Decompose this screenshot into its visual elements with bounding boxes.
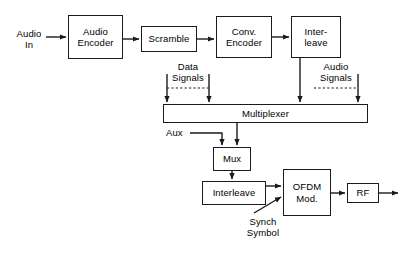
connector-wire-layer — [0, 0, 415, 253]
block-interleave-top-label: Inter- leave — [304, 26, 327, 48]
block-scramble[interactable]: Scramble — [141, 26, 197, 52]
block-rf[interactable]: RF — [347, 183, 379, 203]
label-audio-signals: Audio Signals — [308, 61, 364, 83]
block-mux-label: Mux — [223, 153, 241, 164]
block-ofdm-mod[interactable]: OFDM Mod. — [283, 169, 331, 216]
block-interleave-top[interactable]: Inter- leave — [291, 16, 341, 58]
label-data-signals: Data Signals — [160, 61, 216, 83]
block-multiplexer-label: Multiplexer — [242, 108, 289, 119]
block-conv-encoder[interactable]: Conv. Encoder — [216, 16, 272, 58]
block-interleave-bottom[interactable]: Interleave — [202, 181, 266, 205]
block-rf-label: RF — [357, 187, 370, 198]
block-mux[interactable]: Mux — [213, 147, 251, 171]
block-scramble-label: Scramble — [149, 33, 190, 44]
label-synch-symbol: Synch Symbol — [236, 216, 290, 238]
block-audio-encoder[interactable]: Audio Encoder — [68, 15, 123, 59]
block-interleave-bottom-label: Interleave — [213, 187, 256, 198]
block-multiplexer[interactable]: Multiplexer — [163, 104, 368, 123]
block-diagram: Audio Encoder Scramble Conv. Encoder Int… — [0, 0, 415, 253]
block-audio-encoder-label: Audio Encoder — [77, 26, 113, 48]
block-ofdm-mod-label: OFDM Mod. — [293, 181, 321, 203]
label-audio-in: Audio In — [12, 28, 46, 50]
label-aux: Aux — [166, 127, 196, 138]
block-conv-encoder-label: Conv. Encoder — [226, 26, 262, 48]
